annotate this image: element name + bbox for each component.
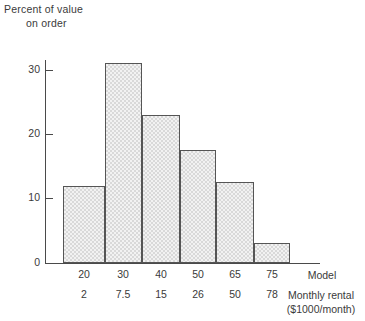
- histogram-chart: Percent of value on order 30 20 10 0 20 …: [0, 0, 365, 321]
- x-tick-label-rental-0: 2: [64, 288, 104, 300]
- bar-50: [180, 150, 216, 263]
- x-tick-label-rental-1: 7.5: [103, 288, 143, 300]
- bar-20: [63, 186, 105, 263]
- x-tick-label-rental-4: 50: [215, 288, 255, 300]
- x-axis-caption-units: ($1000/month): [276, 302, 365, 316]
- y-tick-mark-0: [46, 263, 53, 264]
- bar-40: [142, 115, 180, 263]
- x-tick-label-rental-2: 15: [141, 288, 181, 300]
- x-axis-caption-monthly-rental: Monthly rental: [276, 288, 365, 302]
- y-axis-title: Percent of value on order: [4, 2, 154, 30]
- bar-30: [105, 63, 142, 262]
- x-tick-label-model-4: 65: [215, 268, 255, 280]
- x-tick-label-model-2: 40: [141, 268, 181, 280]
- x-tick-label-model-1: 30: [103, 268, 143, 280]
- y-tick-label-0: 0: [0, 256, 40, 268]
- y-tick-label-20: 20: [0, 127, 40, 139]
- y-axis-line: [45, 60, 46, 264]
- bar-65: [216, 182, 254, 262]
- y-tick-label-30: 30: [0, 63, 40, 75]
- x-tick-label-model-3: 50: [178, 268, 218, 280]
- x-axis-caption-model: Model: [286, 268, 358, 282]
- x-tick-label-model-0: 20: [64, 268, 104, 280]
- y-tick-label-10: 10: [0, 191, 40, 203]
- y-axis-title-line1: Percent of value: [4, 2, 154, 16]
- y-tick-mark-30: [46, 70, 53, 71]
- y-axis-title-line2: on order: [4, 16, 154, 30]
- y-tick-mark-10: [46, 198, 53, 199]
- y-tick-mark-20: [46, 134, 53, 135]
- x-axis-line: [45, 263, 320, 264]
- bar-75: [254, 243, 290, 262]
- x-tick-label-rental-3: 26: [178, 288, 218, 300]
